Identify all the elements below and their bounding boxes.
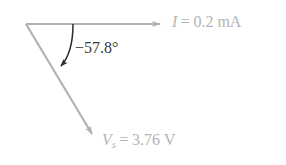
voltage-unit: V — [164, 131, 176, 148]
current-unit: mA — [217, 13, 241, 30]
current-equals-sign: = — [181, 13, 190, 30]
voltage-value: 3.76 — [132, 131, 160, 148]
current-phasor-label: I=0.2 mA — [172, 14, 241, 30]
phase-angle-label: −57.8° — [75, 40, 118, 56]
voltage-equals-sign: = — [120, 131, 129, 148]
phase-angle-arc — [61, 24, 73, 66]
voltage-symbol: V — [102, 131, 112, 148]
phasor-diagram: I=0.2 mA Vs=3.76 V −57.8° — [0, 0, 286, 165]
source-voltage-phasor-label: Vs=3.76 V — [102, 132, 176, 150]
current-value: 0.2 — [193, 13, 213, 30]
current-symbol: I — [172, 13, 177, 30]
voltage-subscript: s — [112, 138, 116, 150]
